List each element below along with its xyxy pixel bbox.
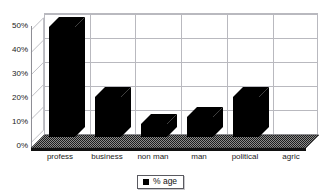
bar-political[interactable] [233, 9, 279, 145]
y-tick-label: 0% [0, 142, 28, 150]
bar-non-man[interactable] [141, 9, 187, 145]
y-tick-label: 40% [0, 46, 28, 54]
x-tick-label-profess: profess [33, 152, 87, 161]
chart-container: 50% 40% 30% 20% 10% 0% profess business … [0, 0, 331, 192]
y-axis-line [31, 26, 32, 148]
legend-label: % age [153, 177, 177, 186]
bar-profess[interactable] [49, 9, 95, 145]
bar-man[interactable] [187, 9, 233, 145]
chart-legend[interactable]: % age [137, 175, 184, 189]
legend-swatch-icon [143, 179, 149, 185]
bar-agric[interactable] [279, 9, 325, 145]
chart-title [0, 0, 331, 2]
y-tick-label: 30% [0, 70, 28, 78]
bar-business[interactable] [95, 9, 141, 145]
y-tick-label: 20% [0, 94, 28, 102]
x-tick-label-agric: agric [264, 152, 318, 161]
axis-depth-wall [31, 13, 44, 148]
y-tick-label: 10% [0, 118, 28, 126]
bars-layer [44, 13, 318, 135]
y-tick-label: 50% [0, 22, 28, 30]
